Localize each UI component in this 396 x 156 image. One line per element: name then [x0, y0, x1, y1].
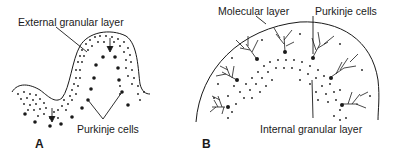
dendritic-trees-b: [210, 28, 368, 114]
label-purkinje-cells-a: Purkinje cells: [77, 123, 139, 135]
panel-b: Molecular layer Purkinje cells Internal …: [196, 5, 379, 151]
label-purkinje-cells-b: Purkinje cells: [315, 5, 377, 17]
panel-a: External granular layer Purkinje cells A: [12, 16, 150, 151]
leader-lines-a: [56, 27, 122, 119]
leader-lines-b: [256, 16, 313, 118]
purkinje-cells-a: [23, 55, 130, 128]
cerebellum-diagram: External granular layer Purkinje cells A: [0, 0, 396, 156]
label-external-granular-layer: External granular layer: [18, 16, 124, 28]
panel-letter-a: A: [35, 137, 44, 151]
purkinje-cells-b: [226, 50, 344, 109]
panel-letter-b: B: [202, 137, 211, 151]
label-molecular-layer: Molecular layer: [218, 5, 290, 17]
folium-outline-a: [12, 32, 150, 100]
label-internal-granular-layer: Internal granular layer: [260, 123, 363, 135]
